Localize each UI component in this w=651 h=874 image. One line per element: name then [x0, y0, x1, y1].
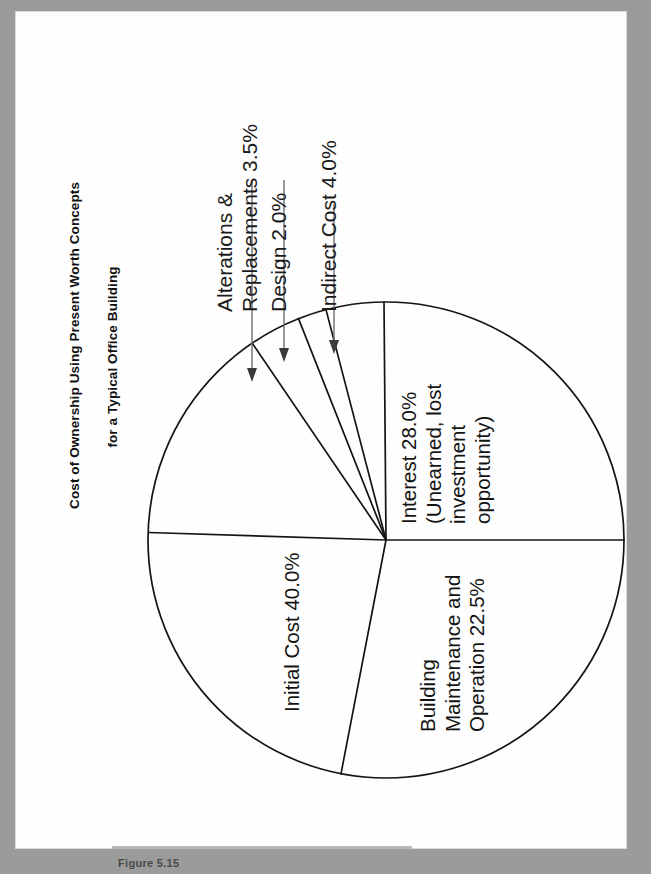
slice-edge-6 [384, 302, 386, 540]
label-initial-cost: Initial Cost 40.0% [280, 552, 305, 712]
leader-arrow-design [279, 348, 289, 362]
label-interest: Interest 28.0% (Unearned, lost investmen… [397, 384, 495, 524]
caption-rule [112, 846, 412, 849]
label-design: Design 2.0% [266, 193, 291, 312]
label-indirect-cost: Indirect Cost 4.0% [316, 140, 341, 312]
leader-arrow-indirect [329, 340, 339, 354]
figure-title-line-1: Cost of Ownership Using Present Worth Co… [67, 182, 82, 509]
slice-edge-4 [299, 319, 387, 540]
slice-edge-1 [341, 540, 386, 774]
figure-caption: Figure 5.15 [118, 857, 179, 869]
slice-edge-3 [252, 343, 386, 540]
pie-outline [148, 302, 624, 778]
scanner-background: Cost of Ownership Using Present Worth Co… [0, 0, 651, 874]
label-building-maintenance-operation: Building Maintenance and Operation 22.5% [416, 575, 490, 732]
scanned-page: Cost of Ownership Using Present Worth Co… [16, 12, 626, 848]
figure-title-line-2: for a Typical Office Building [103, 182, 122, 532]
figure-title: Cost of Ownership Using Present Worth Co… [46, 182, 160, 532]
leader-arrow-alterations [247, 368, 257, 382]
slice-edge-2 [149, 533, 387, 541]
label-alterations-replacements: Alterations & Replacements 3.5% [212, 124, 262, 312]
slice-edge-5 [326, 310, 386, 540]
